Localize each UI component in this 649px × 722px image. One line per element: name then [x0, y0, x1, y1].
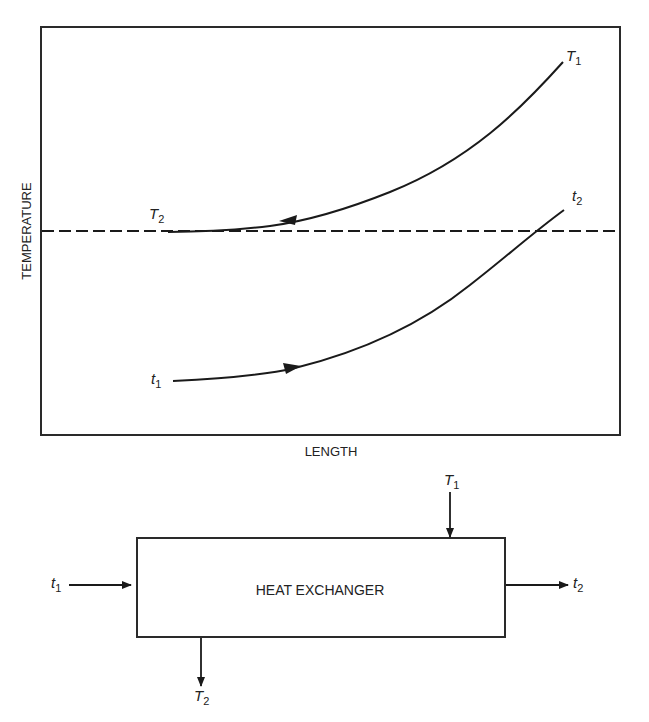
heat-exchanger-label: HEAT EXCHANGER: [256, 582, 385, 598]
x-axis-label: LENGTH: [305, 444, 358, 459]
y-axis-label: TEMPERATURE: [19, 182, 34, 280]
label-T2-plot: T2: [149, 205, 164, 225]
label-t1-inlet: t1: [51, 574, 61, 594]
cold-flow-arrow-icon: [283, 363, 301, 374]
hot-fluid-curve: [168, 62, 563, 232]
label-T1-plot: T1: [566, 47, 581, 67]
label-t1-plot: t1: [151, 370, 161, 390]
cold-fluid-curve: [173, 210, 564, 381]
label-t2-outlet: t2: [573, 574, 583, 594]
label-T1-inlet: T1: [444, 471, 459, 491]
label-t2-plot: t2: [572, 187, 582, 207]
diagram-canvas: TEMPERATURE LENGTH T1 T2 t1 t2 HEAT EXCH…: [0, 0, 649, 722]
label-T2-outlet: T2: [194, 687, 209, 707]
